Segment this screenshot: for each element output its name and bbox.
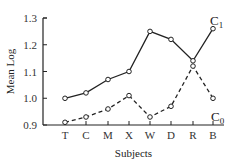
data-point-marker (127, 93, 132, 98)
data-point-marker (191, 59, 196, 64)
data-point-marker (191, 64, 196, 69)
data-point-marker (84, 115, 89, 120)
y-tick-label: 1.2 (23, 39, 37, 51)
series-label-c1: C1 (210, 13, 223, 30)
data-point-marker (106, 107, 111, 112)
x-tick-label: W (145, 129, 156, 141)
y-tick-label: 1.1 (23, 66, 37, 78)
series-line-c1 (65, 29, 213, 99)
data-point-marker (211, 96, 216, 101)
data-point-marker (127, 69, 132, 74)
data-point-marker (63, 96, 68, 101)
line-chart: 0.91.01.11.21.3TCMXWDRB SubjectsMean Log… (0, 0, 234, 162)
y-tick-label: 1.3 (23, 12, 37, 24)
x-tick-label: R (189, 129, 197, 141)
data-point-marker (169, 37, 174, 42)
x-axis-title: Subjects (115, 147, 152, 159)
data-point-marker (63, 120, 68, 125)
y-tick-label: 0.9 (23, 119, 37, 131)
x-tick-label: C (82, 129, 89, 141)
y-axis-title: Mean Log (4, 48, 16, 94)
x-tick-label: D (167, 129, 175, 141)
data-point-marker (148, 115, 153, 120)
x-tick-label: M (103, 129, 113, 141)
y-tick-label: 1.0 (23, 92, 37, 104)
data-point-marker (84, 91, 89, 96)
x-tick-label: B (209, 129, 216, 141)
axes: 0.91.01.11.21.3TCMXWDRB (23, 12, 224, 141)
data-point-marker (106, 77, 111, 82)
series-group (63, 26, 216, 124)
x-tick-label: T (62, 129, 69, 141)
series-label-c0: C0 (211, 109, 225, 126)
x-tick-label: X (125, 129, 133, 141)
data-point-marker (148, 29, 153, 34)
data-point-marker (169, 104, 174, 109)
